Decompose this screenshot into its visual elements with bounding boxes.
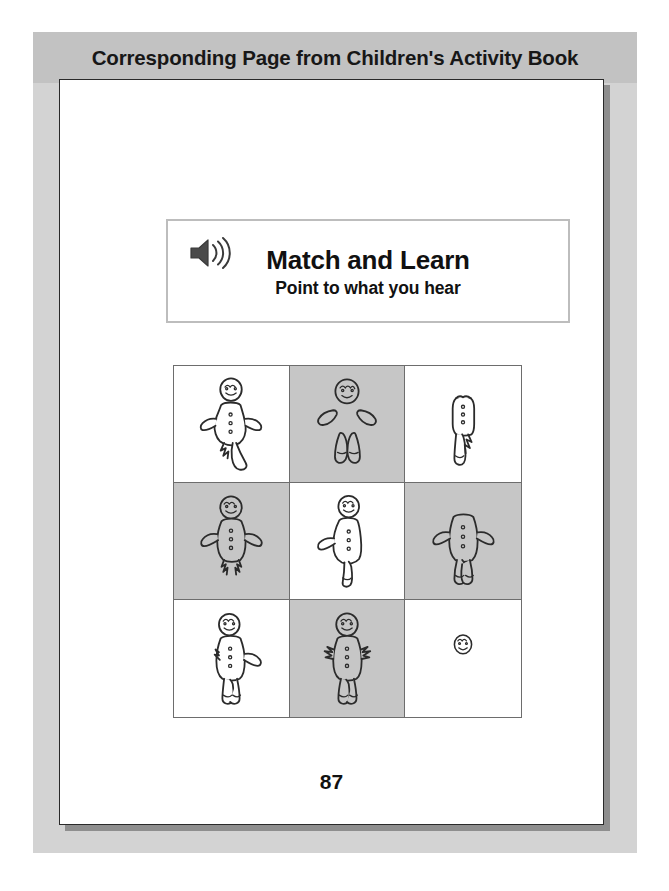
grid-cell-8[interactable]: [290, 600, 406, 717]
gingerbread-missing-arm-and-leg-icon: [304, 491, 390, 591]
grid-cell-9[interactable]: [405, 600, 521, 717]
grid-cell-2[interactable]: [290, 366, 406, 483]
gingerbread-missing-one-leg-icon: [188, 374, 274, 474]
instruction-text-group: Match and Learn Point to what you hear: [168, 221, 568, 321]
instruction-box: Match and Learn Point to what you hear: [166, 219, 570, 323]
figure-caption-text: Corresponding Page from Children's Activ…: [92, 46, 579, 70]
gingerbread-head-arms-legs-no-body-icon: [304, 374, 390, 474]
picture-grid: [173, 365, 522, 718]
figure-frame: Corresponding Page from Children's Activ…: [33, 32, 637, 853]
page-number: 87: [60, 770, 603, 794]
instruction-subtitle: Point to what you hear: [275, 278, 460, 299]
gingerbread-missing-one-arm-icon: [188, 609, 274, 709]
gingerbread-arms-bitten-off-icon: [304, 609, 390, 709]
figure-caption-banner: Corresponding Page from Children's Activ…: [33, 32, 637, 83]
grid-cell-6[interactable]: [405, 483, 521, 600]
grid-cell-7[interactable]: [174, 600, 290, 717]
gingerbread-body-and-legs-only-icon: [420, 374, 506, 474]
grid-cell-3[interactable]: [405, 366, 521, 483]
instruction-title: Match and Learn: [266, 247, 470, 274]
grid-cell-5[interactable]: [290, 483, 406, 600]
gingerbread-headless-icon: [420, 491, 506, 591]
gingerbread-feet-bitten-off-icon: [188, 491, 274, 591]
activity-book-page: Match and Learn Point to what you hear: [59, 79, 604, 825]
grid-cell-4[interactable]: [174, 483, 290, 600]
grid-cell-1[interactable]: [174, 366, 290, 483]
gingerbread-head-only-icon: [420, 609, 506, 709]
